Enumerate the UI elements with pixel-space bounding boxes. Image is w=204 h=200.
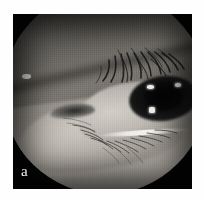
illuminated-circular-field bbox=[13, 14, 192, 189]
panel-label: a bbox=[21, 164, 28, 179]
clinical-photograph: a bbox=[13, 14, 192, 189]
image-grain-texture bbox=[13, 14, 192, 189]
figure-panel: a bbox=[0, 0, 204, 200]
